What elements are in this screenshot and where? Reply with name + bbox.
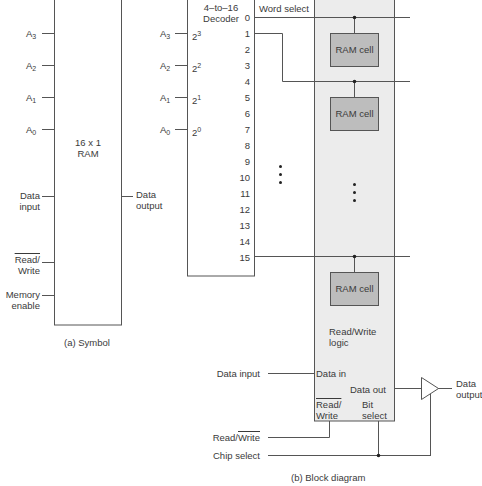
ext-data-output-label: Dataoutput: [456, 378, 482, 400]
symbol-input-a3: A3: [26, 28, 36, 42]
decoder-output-13: 13: [230, 220, 250, 231]
data-in-label: Data in: [316, 368, 346, 379]
decoder-pin-2-2: 22: [192, 60, 201, 74]
ellipsis-dots-cells: [353, 183, 357, 207]
symbol-title: 16 x 1RAM: [54, 137, 122, 159]
symbol-data-output-label: Dataoutput: [136, 189, 162, 211]
ram-symbol-box: [55, 0, 122, 325]
ram-cell-label-0: RAM cell: [330, 44, 379, 55]
decoder-input-label-a1: A1: [160, 92, 170, 106]
ext-chip-select-label: Chip select: [180, 450, 260, 461]
decoder-output-9: 9: [230, 156, 250, 167]
ellipsis-dots-decoder: [279, 165, 283, 189]
decoder-output-2: 2: [230, 44, 250, 55]
decoder-input-label-a0: A0: [160, 124, 170, 138]
decoder-output-4: 4: [230, 76, 250, 87]
decoder-output-3: 3: [230, 60, 250, 71]
block-diagram-caption: (b) Block diagram: [291, 472, 365, 483]
panel-read-write-label: Read/Write: [316, 399, 341, 421]
decoder-output-14: 14: [230, 236, 250, 247]
symbol-caption: (a) Symbol: [64, 337, 110, 348]
ext-read-write-label: Read/Write: [180, 432, 260, 443]
symbol-input-a0: A0: [26, 124, 36, 138]
decoder-output-1: 1: [230, 28, 250, 39]
rw-logic-label: Read/Writelogic: [329, 326, 376, 348]
bit-select-label: Bitselect: [362, 399, 387, 421]
data-out-label: Data out: [350, 384, 386, 395]
decoder-input-label-a2: A2: [160, 60, 170, 74]
decoder-output-11: 11: [230, 188, 250, 199]
decoder-output-6: 6: [230, 108, 250, 119]
word-select-label: Word select: [259, 3, 309, 14]
decoder-output-12: 12: [230, 204, 250, 215]
decoder-output-10: 10: [230, 172, 250, 183]
decoder-output-8: 8: [230, 140, 250, 151]
symbol-data-input-label: Datainput: [0, 190, 40, 212]
symbol-input-a2: A2: [26, 60, 36, 74]
ram-cell-label-1: RAM cell: [330, 108, 379, 119]
decoder-input-label-a3: A3: [160, 28, 170, 42]
decoder-output-15: 15: [230, 252, 250, 263]
decoder-pin-2-0: 20: [192, 124, 201, 138]
symbol-read-write-label: Read/Write: [0, 254, 40, 276]
symbol-memory-enable-label: Memoryenable: [0, 289, 40, 311]
decoder-pin-2-1: 21: [192, 92, 201, 106]
decoder-pin-2-3: 23: [192, 28, 201, 42]
symbol-input-a1: A1: [26, 92, 36, 106]
ext-data-input-label: Data input: [180, 368, 260, 379]
ram-cell-label-15: RAM cell: [330, 283, 379, 294]
decoder-output-5: 5: [230, 92, 250, 103]
decoder-output-0: 0: [230, 12, 250, 23]
decoder-output-7: 7: [230, 124, 250, 135]
